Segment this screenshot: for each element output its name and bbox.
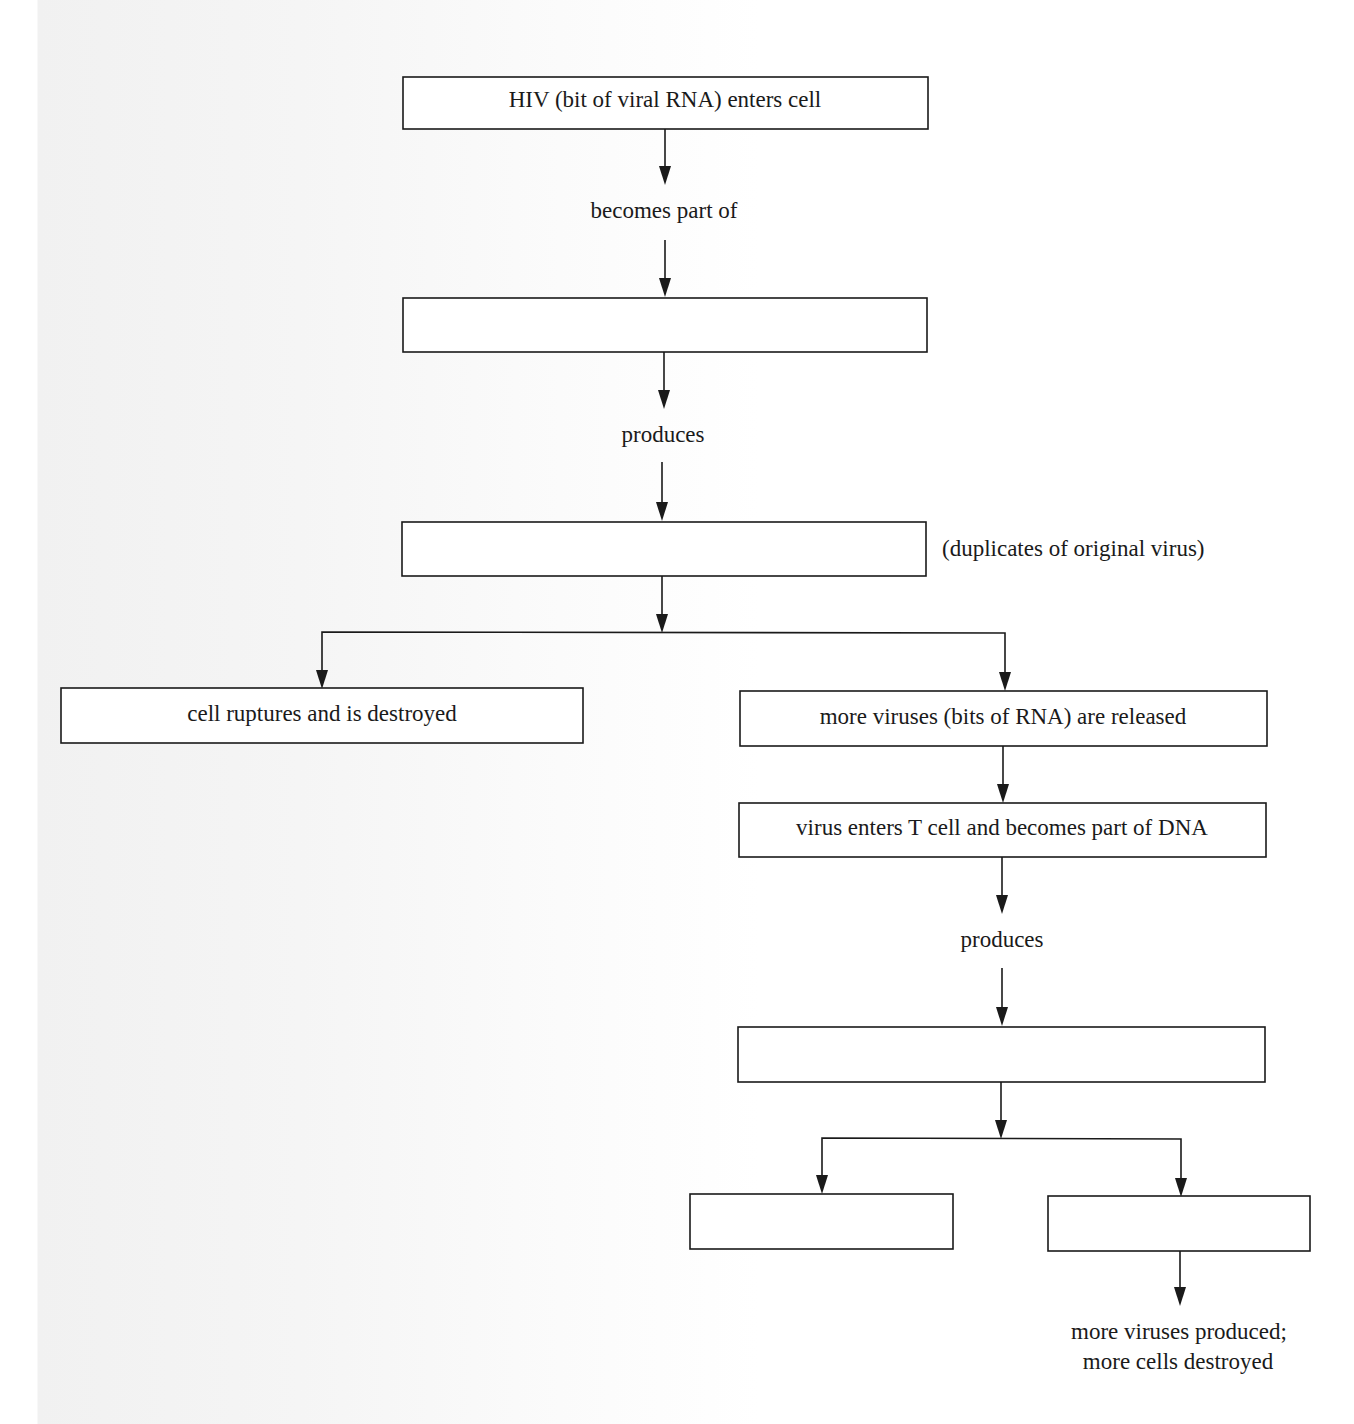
node-blank-1 xyxy=(403,298,927,352)
edge-label-produces: produces xyxy=(960,927,1043,952)
node-label: cell ruptures and is destroyed xyxy=(187,701,457,726)
node-label: virus enters T cell and becomes part of … xyxy=(796,815,1208,840)
node-more-viruses-released: more viruses (bits of RNA) are released xyxy=(740,691,1267,746)
arrow-split xyxy=(816,1082,1187,1197)
edge-label-becomes-part-of: becomes part of xyxy=(591,198,738,223)
arrow-down xyxy=(658,352,670,409)
node-box xyxy=(738,1027,1265,1082)
node-label: HIV (bit of viral RNA) enters cell xyxy=(509,87,822,112)
arrow-down xyxy=(659,129,671,185)
annotation-final-line-1: more viruses produced; xyxy=(1071,1319,1287,1344)
edge-label-produces: produces xyxy=(621,422,704,447)
node-virus-enters-t-cell: virus enters T cell and becomes part of … xyxy=(739,803,1266,857)
annotation-final-line-2: more cells destroyed xyxy=(1083,1349,1274,1374)
node-blank-3 xyxy=(738,1027,1265,1082)
arrow-down xyxy=(996,857,1008,914)
arrow-down xyxy=(997,746,1009,803)
arrow-down xyxy=(656,462,668,521)
node-blank-2 xyxy=(402,522,926,576)
node-box xyxy=(1048,1196,1310,1251)
node-box xyxy=(403,298,927,352)
arrow-split xyxy=(316,576,1011,691)
node-cell-ruptures: cell ruptures and is destroyed xyxy=(61,688,583,743)
arrow-down xyxy=(1174,1251,1186,1306)
node-hiv-enters-cell: HIV (bit of viral RNA) enters cell xyxy=(403,77,928,129)
diagram-page: HIV (bit of viral RNA) enters cell becom… xyxy=(0,0,1354,1424)
arrow-down xyxy=(659,240,671,297)
node-box xyxy=(402,522,926,576)
arrow-down xyxy=(996,968,1008,1026)
flowchart: HIV (bit of viral RNA) enters cell becom… xyxy=(0,0,1354,1424)
node-blank-5 xyxy=(1048,1196,1310,1251)
node-blank-4 xyxy=(690,1194,953,1249)
annotation-duplicates-note: (duplicates of original virus) xyxy=(942,536,1205,561)
node-label: more viruses (bits of RNA) are released xyxy=(820,704,1187,729)
node-box xyxy=(690,1194,953,1249)
